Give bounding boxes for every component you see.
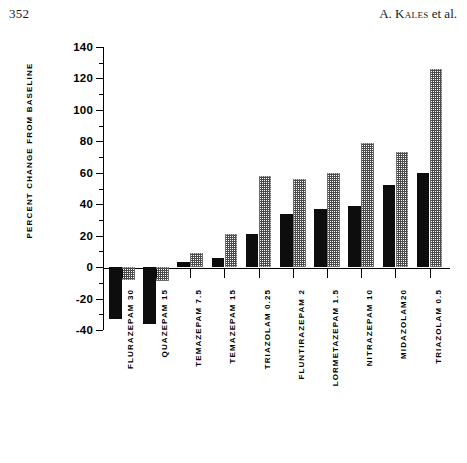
bar-group [348, 47, 382, 330]
y-tick-major [96, 78, 103, 79]
y-tick-major [96, 204, 103, 205]
bar-solid [109, 267, 122, 319]
bar-group [212, 47, 246, 330]
bar-group [246, 47, 280, 330]
plot-area: 140120100806040200-20-40 FLURAZEPAM 30QU… [103, 47, 450, 330]
x-tick [327, 269, 328, 278]
y-tick-label: 100 [73, 104, 93, 116]
bar-solid [417, 173, 430, 267]
y-tick-minor [99, 126, 103, 127]
y-tick-label: 120 [73, 72, 93, 84]
page-header: 352 A. Kales et al. [0, 6, 467, 26]
bar-group [177, 47, 211, 330]
y-tick-major [96, 141, 103, 142]
bar-group [314, 47, 348, 330]
y-tick-minor [99, 94, 103, 95]
bar-hatched [396, 152, 409, 267]
bar-group [383, 47, 417, 330]
x-tick [361, 269, 362, 278]
y-tick-label: -40 [76, 324, 93, 336]
bar-solid [177, 262, 190, 267]
bar-hatched [259, 176, 272, 267]
x-tick [156, 269, 157, 278]
x-axis-label: QUAZEPAM 15 [160, 289, 169, 357]
bar-solid [143, 267, 156, 324]
bar-hatched [156, 267, 169, 281]
x-axis-label: MIDAZOLAM20 [399, 289, 408, 359]
y-tick-minor [99, 63, 103, 64]
y-tick-major [96, 299, 103, 300]
y-axis-title: PERCENT CHANGE FROM BASELINE [25, 61, 34, 241]
y-tick-label: 40 [80, 198, 93, 210]
x-axis-label: FLURAZEPAM 30 [126, 289, 135, 369]
bar-solid [383, 185, 396, 267]
y-tick-minor [99, 251, 103, 252]
y-tick-minor [99, 189, 103, 190]
x-tick [430, 269, 431, 278]
y-tick-label: 0 [86, 261, 93, 273]
bar-hatched [327, 173, 340, 267]
bar-hatched [122, 267, 135, 280]
y-tick-minor [99, 283, 103, 284]
bar-hatched [430, 69, 443, 267]
y-tick-major [96, 267, 103, 268]
bar-group [109, 47, 143, 330]
running-head-prefix: A. [379, 6, 395, 21]
y-tick-minor [99, 314, 103, 315]
x-axis-label: LORMETAZEPAM 1.5 [331, 289, 340, 386]
running-head-suffix: et al. [428, 6, 457, 21]
running-head: A. Kales et al. [379, 6, 457, 22]
x-tick [259, 269, 260, 278]
page-folio: 352 [9, 6, 29, 22]
bar-hatched [293, 179, 306, 267]
x-axis-label: TEMAZEPAM 15 [228, 289, 237, 363]
x-tick [293, 269, 294, 278]
bar-solid [280, 214, 293, 267]
bar-solid [314, 209, 327, 267]
bar-group [143, 47, 177, 330]
x-axis-label: FLUNTIRAZEPAM 2 [297, 289, 306, 380]
y-axis-line [103, 47, 104, 330]
y-tick-major [96, 47, 103, 48]
y-tick-label: 20 [80, 230, 93, 242]
x-axis-label: TRIAZOLAM 0.25 [263, 289, 272, 369]
bar-solid [348, 206, 361, 267]
bar-hatched [225, 234, 238, 267]
bar-solid [212, 258, 225, 267]
x-tick [224, 269, 225, 278]
x-axis-label: NITRAZEPAM 10 [365, 289, 374, 366]
x-axis-label: TRIAZOLAM 0.5 [434, 289, 443, 364]
x-axis-label: TEMAZEPAM 7.5 [194, 289, 203, 367]
y-tick-major [96, 173, 103, 174]
y-tick-label: 60 [80, 167, 93, 179]
bar-group [280, 47, 314, 330]
y-tick-label: 140 [73, 41, 93, 53]
bar-hatched [190, 253, 203, 267]
y-tick-major [96, 330, 103, 331]
bar-hatched [361, 143, 374, 267]
x-tick [122, 269, 123, 278]
running-head-author: Kales [395, 6, 428, 21]
y-tick-minor [99, 157, 103, 158]
y-tick-label: -20 [76, 293, 93, 305]
x-tick [395, 269, 396, 278]
y-tick-major [96, 110, 103, 111]
bar-group [417, 47, 451, 330]
y-tick-minor [99, 220, 103, 221]
bar-solid [246, 234, 259, 267]
x-tick [190, 269, 191, 278]
y-tick-major [96, 236, 103, 237]
y-tick-label: 80 [80, 135, 93, 147]
bar-chart-figure: PERCENT CHANGE FROM BASELINE 14012010080… [0, 26, 467, 463]
